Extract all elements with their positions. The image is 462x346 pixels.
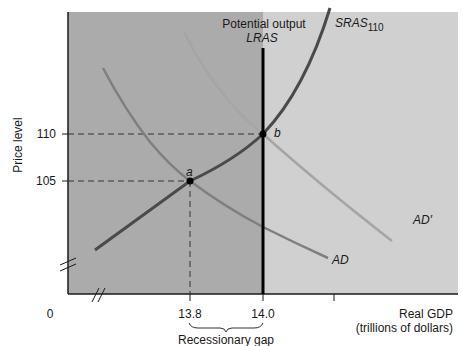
- point-b: [260, 131, 267, 138]
- chart: Potential output LRAS SRAS110 AD AD′ a b…: [0, 0, 462, 346]
- y-label-105: 105: [36, 174, 56, 188]
- potential-output-label: Potential output: [222, 17, 306, 31]
- origin-label: 0: [47, 307, 54, 321]
- recessionary-gap-label: Recessionary gap: [178, 333, 274, 346]
- above-potential-region: [263, 12, 458, 294]
- x-axis-title-line1: Real GDP: [399, 307, 453, 321]
- gap-brace-icon: [189, 323, 263, 332]
- x-label-13.8: 13.8: [178, 307, 202, 321]
- y-label-110: 110: [37, 127, 56, 141]
- lras-label: LRAS: [246, 31, 277, 45]
- ad-prime-label: AD′: [412, 213, 433, 227]
- ad-label: AD: [331, 253, 349, 267]
- point-b-label: b: [274, 126, 281, 140]
- x-axis-title-line2: (trillions of dollars): [356, 321, 453, 335]
- below-potential-region: [68, 12, 263, 294]
- point-a-label: a: [186, 165, 193, 179]
- x-label-14.0: 14.0: [251, 307, 275, 321]
- y-axis-title: Price level: [11, 117, 25, 172]
